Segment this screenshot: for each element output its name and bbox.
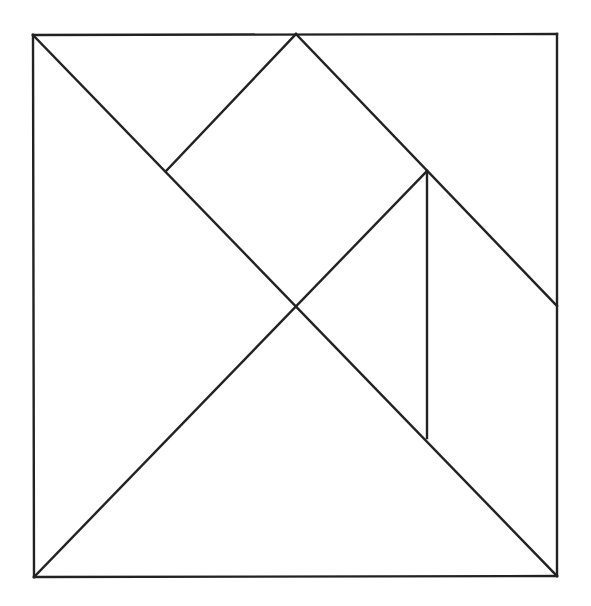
tangram-diagram — [0, 0, 591, 606]
outer-bottom-edge — [34, 576, 557, 577]
outer-left-edge — [33, 35, 34, 577]
